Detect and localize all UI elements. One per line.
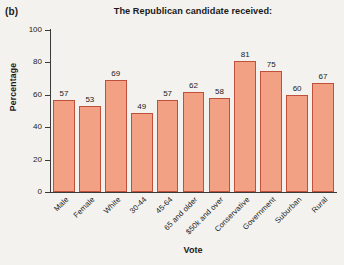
y-tick-mark [45, 62, 50, 63]
bar-value-label: 75 [267, 61, 276, 69]
bar-slot: 81 [232, 30, 258, 192]
bar-slot: 75 [258, 30, 284, 192]
bar[interactable] [234, 61, 256, 192]
bar-slot: 69 [103, 30, 129, 192]
bar-slot: 58 [206, 30, 232, 192]
x-label-slot: Female [77, 193, 103, 245]
x-label-slot: Male [51, 193, 77, 245]
bar-value-label: 57 [163, 90, 172, 98]
bar[interactable] [105, 80, 127, 192]
y-tick-label: 40 [2, 123, 42, 131]
y-tick-label: 20 [2, 156, 42, 164]
x-axis-title: Vote [48, 245, 338, 255]
bar-value-label: 81 [241, 51, 250, 59]
bar[interactable] [79, 106, 101, 192]
bar[interactable] [209, 98, 231, 192]
y-tick-label: 80 [2, 58, 42, 66]
x-label-slot: White [103, 193, 129, 245]
bar-value-label: 62 [189, 82, 198, 90]
y-tick-mark [45, 30, 50, 31]
x-axis-tick-label: Male [52, 195, 70, 213]
bar-series: 5753694957625881756067 [51, 30, 336, 192]
x-label-slot: 30-44 [129, 193, 155, 245]
y-tick-mark [45, 192, 50, 193]
bar[interactable] [157, 100, 179, 192]
x-axis-tick-label: White [102, 195, 122, 215]
x-label-slot: Suburban [284, 193, 310, 245]
x-axis-tick-label: Rural [310, 195, 330, 215]
bar-slot: 57 [51, 30, 77, 192]
x-label-slot: Rural [310, 193, 336, 245]
bar-value-label: 69 [111, 70, 120, 78]
bar-value-label: 58 [215, 88, 224, 96]
bar-value-label: 67 [319, 73, 328, 81]
bar-slot: 62 [181, 30, 207, 192]
bar-slot: 57 [155, 30, 181, 192]
bar-value-label: 57 [60, 90, 69, 98]
bar[interactable] [131, 113, 153, 192]
bar-chart-figure: (b) The Republican candidate received: P… [0, 0, 344, 265]
y-tick-label: 100 [2, 26, 42, 34]
y-tick-label: 60 [2, 91, 42, 99]
bar[interactable] [286, 95, 308, 192]
panel-label: (b) [5, 6, 18, 17]
bar-slot: 49 [129, 30, 155, 192]
x-axis-tick-labels: MaleFemaleWhite30-4445-6465 and older$50… [51, 193, 336, 245]
bar-slot: 67 [310, 30, 336, 192]
bar[interactable] [312, 83, 334, 192]
bar-value-label: 60 [293, 85, 302, 93]
bar[interactable] [183, 92, 205, 192]
bar-value-label: 49 [137, 103, 146, 111]
y-tick-mark [45, 160, 50, 161]
y-tick-mark [45, 95, 50, 96]
bar-slot: 60 [284, 30, 310, 192]
bar-slot: 53 [77, 30, 103, 192]
y-tick-mark [45, 127, 50, 128]
bar[interactable] [53, 100, 75, 192]
bar[interactable] [260, 71, 282, 193]
y-tick-label: 0 [2, 188, 42, 196]
bar-value-label: 53 [85, 96, 94, 104]
chart-title: The Republican candidate received: [48, 6, 338, 16]
x-axis-tick-label: 30-44 [128, 195, 148, 215]
x-axis-tick-label: 45-64 [153, 195, 173, 215]
